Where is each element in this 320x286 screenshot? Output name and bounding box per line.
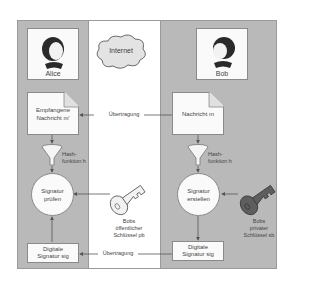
private-key-line-3: Schlüssel sb [236, 232, 282, 239]
bob-signature-doc: Digitale Signatur sig [172, 241, 224, 261]
private-key-icon [238, 182, 278, 216]
private-key-line-2: privater [236, 225, 282, 232]
transfer-label-message: Übertragung [104, 111, 144, 118]
public-key-icon [108, 182, 148, 216]
hash-label-bob: Hash- funktion h [208, 151, 232, 165]
public-key-line-2: öffentlicher [104, 225, 154, 232]
create-line-1: Signatur [187, 187, 210, 195]
private-key-line-1: Bobs [236, 218, 282, 225]
hash-label-line-2: funktion h [62, 158, 86, 165]
signature-line-2: Signatur sig [173, 251, 223, 258]
public-key-line-1: Bobs [104, 218, 154, 225]
public-key-line-3: Schlüssel pb [104, 232, 154, 239]
page-fold-icon [27, 92, 79, 135]
transfer-label-signature: Übertragung [98, 250, 138, 257]
verify-signature-node: Signatur prüfen [31, 173, 74, 216]
signature-line-1: Digitale [173, 244, 223, 251]
signature-line-2: Signatur sig [28, 253, 78, 260]
alice-signature-doc: Digitale Signatur sig [27, 243, 79, 263]
private-key-label: Bobs privater Schlüssel sb [236, 218, 282, 239]
hash-label-line-1: Hash- [208, 151, 232, 158]
hash-label-line-2: funktion h [208, 158, 232, 165]
verify-line-2: prüfen [41, 195, 63, 203]
create-line-2: erstellen [187, 195, 210, 203]
public-key-label: Bobs öffentlicher Schlüssel pb [104, 218, 154, 239]
page-fold-icon [172, 92, 224, 135]
signature-line-1: Digitale [28, 246, 78, 253]
hash-label-alice: Hash- funktion h [62, 151, 86, 165]
verify-line-1: Signatur [41, 187, 63, 195]
hash-label-line-1: Hash- [62, 151, 86, 158]
funnel-icon [186, 144, 210, 166]
funnel-icon [40, 144, 64, 166]
create-signature-node: Signatur erstellen [177, 173, 220, 216]
